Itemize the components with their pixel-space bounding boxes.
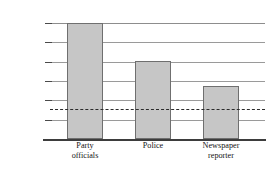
x-axis-category-labels: PartyofficialsPoliceNewspaperreporter [52,141,265,169]
plot-area: 024681012 [52,17,265,139]
bar [67,23,103,139]
bar-chart-figure: Estimated numbers in thousands 024681012… [0,0,270,169]
y-axis-tick-mark [45,23,52,24]
y-axis-tick-mark [45,42,52,43]
x-axis-category-label: Newspaperreporter [181,141,261,161]
y-axis-tick-mark [45,100,52,101]
reference-line [50,109,265,110]
bar [203,86,239,139]
y-axis-tick-mark [45,81,52,82]
y-axis-tick-mark [45,62,52,63]
y-axis-tick-mark [45,120,52,121]
category-label-line: Newspaper [181,141,261,151]
category-label-line: reporter [181,151,261,161]
bar [135,61,171,139]
category-label-line: officials [45,151,125,161]
